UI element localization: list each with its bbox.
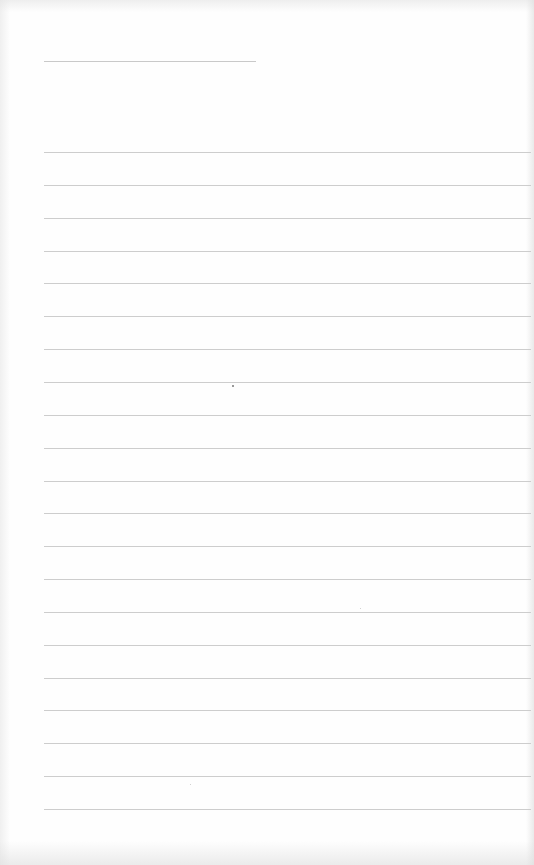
paper-speck [232,385,234,387]
ruled-line [44,743,531,744]
paper-speck [360,608,361,609]
ruled-line [44,349,531,350]
ruled-lines [0,0,534,865]
ruled-line [44,809,531,810]
ruled-line [44,316,531,317]
ruled-line [44,645,531,646]
ruled-line [44,283,531,284]
ruled-line [44,415,531,416]
ruled-line [44,678,531,679]
ruled-line [44,251,531,252]
ruled-line [44,612,531,613]
ruled-line [44,710,531,711]
ruled-line [44,546,531,547]
ruled-line [44,448,531,449]
paper-speck [190,784,191,785]
ruled-line [44,152,531,153]
ruled-line [44,382,531,383]
ruled-line [44,185,531,186]
ruled-line [44,579,531,580]
ruled-line [44,513,531,514]
ruled-line [44,481,531,482]
ruled-line [44,776,531,777]
ruled-line [44,218,531,219]
lined-paper-sheet [0,0,534,865]
